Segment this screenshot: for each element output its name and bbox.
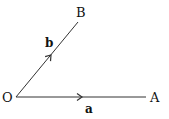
vector-label-b: b: [45, 36, 53, 50]
point-label-a: A: [149, 90, 160, 105]
vector-label-a: a: [85, 102, 93, 116]
vector-diagram: O A B b a: [0, 0, 169, 119]
point-label-o: O: [2, 90, 13, 105]
line-ob: [16, 22, 78, 97]
diagram-svg: O A B b a: [0, 0, 169, 119]
point-label-b: B: [76, 5, 86, 20]
